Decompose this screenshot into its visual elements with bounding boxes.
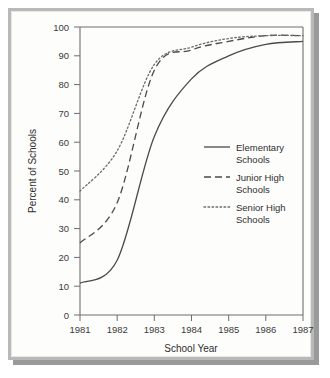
legend-label-elementary-line2: Schools <box>236 154 270 165</box>
y-axis-ticks <box>74 27 80 315</box>
x-tick-label: 1983 <box>144 324 165 335</box>
legend-label-junior-high-line2: Schools <box>236 184 270 195</box>
y-axis-title: Percent of Schools <box>27 129 38 213</box>
x-tick-label: 1985 <box>218 324 239 335</box>
line-chart: 100 90 80 70 60 50 40 30 20 10 0 1981 19… <box>8 8 314 360</box>
x-tick-label: 1984 <box>181 324 202 335</box>
legend-label-senior-high-line2: Schools <box>236 214 270 225</box>
y-tick-label: 10 <box>58 281 69 292</box>
legend-label-junior-high-line1: Junior High <box>236 172 284 183</box>
x-tick-label: 1982 <box>107 324 128 335</box>
y-tick-label: 20 <box>58 252 69 263</box>
legend: Elementary Schools Junior High Schools S… <box>204 142 286 225</box>
x-tick-label: 1981 <box>69 324 90 335</box>
y-tick-label: 70 <box>58 108 69 119</box>
y-tick-label: 40 <box>58 194 69 205</box>
y-tick-label: 80 <box>58 79 69 90</box>
legend-label-elementary-line1: Elementary <box>236 142 284 153</box>
legend-label-senior-high-line1: Senior High <box>236 202 286 213</box>
x-tick-labels: 1981 1982 1983 1984 1985 1986 1987 <box>69 324 313 335</box>
chart-screenshot: 100 90 80 70 60 50 40 30 20 10 0 1981 19… <box>0 0 330 378</box>
x-axis-ticks <box>80 315 303 321</box>
series-line-senior-high <box>80 35 303 191</box>
y-tick-label: 50 <box>58 166 69 177</box>
x-tick-label: 1986 <box>255 324 276 335</box>
y-tick-label: 100 <box>53 22 69 33</box>
y-tick-label: 60 <box>58 137 69 148</box>
x-tick-label: 1987 <box>292 324 313 335</box>
y-tick-label: 0 <box>64 310 69 321</box>
y-tick-label: 30 <box>58 223 69 234</box>
y-tick-labels: 100 90 80 70 60 50 40 30 20 10 0 <box>53 22 69 321</box>
y-tick-label: 90 <box>58 50 69 61</box>
x-axis-title: School Year <box>164 343 218 354</box>
